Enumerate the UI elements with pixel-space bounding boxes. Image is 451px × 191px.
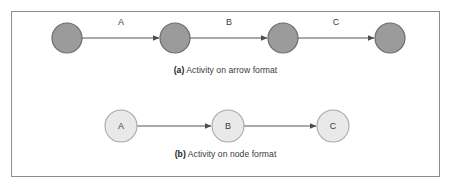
activity-node-label-c: C: [318, 122, 348, 131]
caption-b-text: Activity on node format: [188, 149, 277, 159]
caption-a-text: Activity on arrow format: [186, 65, 277, 75]
caption-activity-on-node: (b) Activity on node format: [0, 149, 451, 159]
arrow-activity-label-c: C: [321, 18, 351, 27]
arrow-activity-label-a: A: [106, 18, 136, 27]
arrow-activity-label-b: B: [214, 18, 244, 27]
figure-root: A B C (a) Activity on arrow format A B C…: [0, 0, 451, 191]
caption-activity-on-arrow: (a) Activity on arrow format: [0, 65, 451, 75]
activity-node-label-b: B: [213, 122, 243, 131]
caption-b-tag: (b): [175, 149, 186, 159]
activity-node-label-a: A: [106, 122, 136, 131]
caption-a-tag: (a): [174, 65, 185, 75]
